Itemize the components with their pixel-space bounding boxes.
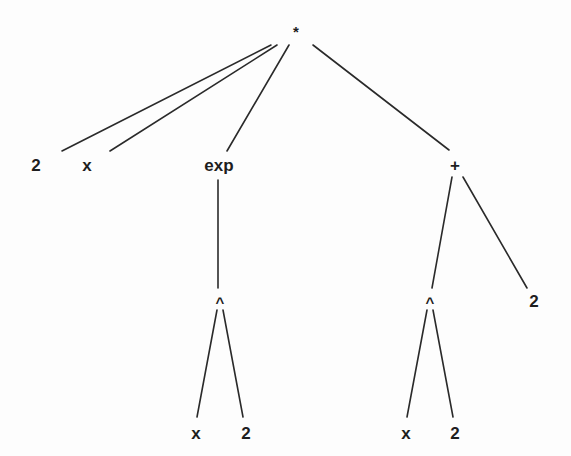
node-nexp: exp — [204, 156, 233, 175]
node-root: * — [293, 23, 299, 40]
node-n2d: 2 — [450, 424, 459, 443]
tree-svg: *2xexp+^^2x2x2 — [0, 0, 571, 456]
node-nx3: x — [401, 424, 411, 443]
tree-edges — [62, 45, 527, 417]
expression-tree-diagram: *2xexp+^^2x2x2 — [0, 0, 571, 456]
node-nx1: x — [82, 156, 92, 175]
edge-root-nplus — [313, 45, 449, 150]
edge-root-nexp — [227, 45, 289, 151]
tree-nodes: *2xexp+^^2x2x2 — [31, 23, 538, 444]
edge-pow2-nx3 — [407, 310, 427, 417]
edge-nplus-pow2 — [432, 177, 452, 288]
edge-pow1-n2c — [223, 310, 243, 417]
edge-root-nx1 — [110, 45, 277, 151]
edge-pow1-nx2 — [197, 310, 217, 417]
node-nx2: x — [191, 424, 201, 443]
edge-pow2-n2d — [433, 310, 453, 417]
node-pow1: ^ — [216, 294, 225, 311]
node-n2a: 2 — [31, 156, 40, 175]
node-n2b: 2 — [529, 292, 538, 311]
node-pow2: ^ — [426, 294, 435, 311]
node-n2c: 2 — [241, 424, 250, 443]
edge-root-n2a — [62, 45, 271, 151]
edge-nplus-n2b — [463, 177, 527, 288]
node-nplus: + — [450, 156, 460, 175]
